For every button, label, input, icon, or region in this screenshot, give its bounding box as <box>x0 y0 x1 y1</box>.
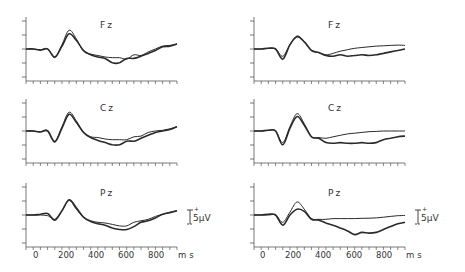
scale-bar-label: 5µV <box>421 213 439 223</box>
trace-thick <box>26 34 177 64</box>
x-tick-label: 800 <box>148 250 164 260</box>
x-tick-label: 200 <box>285 250 301 260</box>
x-tick-labels-right: 0 200 400 600 800 ms <box>260 250 425 260</box>
x-unit-label: ms <box>178 250 197 260</box>
panel-label-left-top: Fz <box>100 20 114 30</box>
panel-label-left-middle: Cz <box>100 103 115 113</box>
trace-thin <box>254 114 405 143</box>
x-unit-label: ms <box>406 250 425 260</box>
panel-label-right-bottom: Pz <box>328 188 342 198</box>
x-tick-label: 0 <box>260 250 265 260</box>
panel-label-left-bottom: Pz <box>100 188 114 198</box>
scale-bar-plus: + <box>422 205 427 212</box>
panel-label-right-middle: Cz <box>328 103 343 113</box>
trace-thin <box>26 30 177 59</box>
x-tick-label: 200 <box>58 250 74 260</box>
scale-bar-plus: + <box>194 205 199 212</box>
x-tick-label: 400 <box>88 250 104 260</box>
panel-label-right-top: Fz <box>328 20 342 30</box>
trace-thin <box>26 112 177 141</box>
scale-bar-right: + 5µV <box>415 205 439 224</box>
trace-thin <box>254 202 405 222</box>
scale-bar-label: 5µV <box>193 213 211 223</box>
trace-thick <box>26 114 177 145</box>
x-tick-label: 600 <box>118 250 134 260</box>
x-tick-label: 400 <box>315 250 331 260</box>
trace-thick <box>254 37 405 60</box>
x-tick-label: 0 <box>33 250 38 260</box>
x-tick-label: 800 <box>376 250 392 260</box>
x-tick-label: 600 <box>346 250 362 260</box>
scale-bar-left: + 5µV <box>187 205 211 224</box>
trace-thick <box>254 209 405 235</box>
trace-thick <box>26 200 177 230</box>
x-tick-labels-left: 0 200 400 600 800 ms <box>33 250 197 260</box>
erp-figure: Fz Cz Pz Fz Cz Pz 0 200 400 600 800 ms 0… <box>0 0 465 272</box>
